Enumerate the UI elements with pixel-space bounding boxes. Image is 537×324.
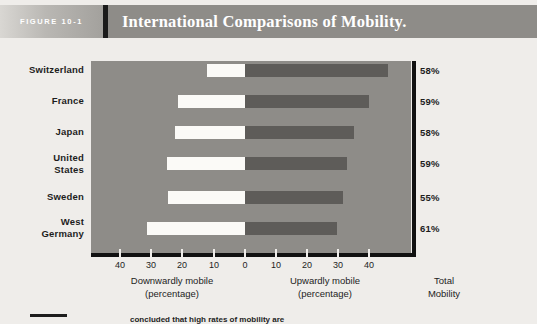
chart-row: West Germany 61% <box>0 222 537 254</box>
figure-title: International Comparisons of Mobility. <box>122 12 406 32</box>
x-tick-label: 30 <box>139 260 163 270</box>
category-label: Sweden <box>0 191 84 203</box>
figure-banner: FIGURE 10-1 International Comparisons of… <box>0 5 537 38</box>
category-label: West Germany <box>0 216 84 239</box>
footnote-text: concluded that high rates of mobility ar… <box>130 315 537 324</box>
bar-downwardly-mobile <box>178 95 245 108</box>
axis-caption-downward-line1: Downwardly mobile <box>131 275 213 286</box>
chart-row: Switzerland 58% <box>0 64 537 96</box>
category-label-line1: West <box>61 216 84 227</box>
total-mobility-value: 59% <box>420 158 440 169</box>
axis-caption-downward-line2: (percentage) <box>145 288 199 299</box>
bar-downwardly-mobile <box>175 126 245 139</box>
axis-caption-total-line1: Total <box>434 275 454 286</box>
x-tick-label: 40 <box>357 260 381 270</box>
figure-page: FIGURE 10-1 International Comparisons of… <box>0 0 537 324</box>
category-label-line1: Sweden <box>47 191 84 202</box>
axis-caption-upward-line1: Upwardly mobile <box>290 275 360 286</box>
bar-upwardly-mobile <box>245 64 388 77</box>
axis-caption-upward-line2: (percentage) <box>298 288 352 299</box>
bar-upwardly-mobile <box>245 126 354 139</box>
axis-caption-downward: Downwardly mobile (percentage) <box>97 274 247 300</box>
bar-downwardly-mobile <box>147 222 245 235</box>
chart: Switzerland 58% France 59% Japan 58% <box>0 58 537 258</box>
chart-row: United States 59% <box>0 157 537 189</box>
bar-upwardly-mobile <box>245 157 347 170</box>
bar-downwardly-mobile <box>168 191 245 204</box>
total-mobility-value: 58% <box>420 65 440 76</box>
figure-number-label: FIGURE 10-1 <box>20 17 83 26</box>
total-mobility-value: 61% <box>420 223 440 234</box>
total-mobility-value: 58% <box>420 127 440 138</box>
x-tick-label: 20 <box>295 260 319 270</box>
total-mobility-value: 55% <box>420 192 440 203</box>
category-label-line2: Germany <box>41 228 84 239</box>
category-label: Switzerland <box>0 64 84 76</box>
x-tick-label: 40 <box>108 260 132 270</box>
category-label-line2: States <box>54 164 84 175</box>
chart-row: France 59% <box>0 95 537 127</box>
category-label-line1: Switzerland <box>29 64 84 75</box>
axis-caption-upward: Upwardly mobile (percentage) <box>250 274 400 300</box>
axis-caption-total-line2: Mobility <box>428 288 460 299</box>
x-tick-label: 30 <box>326 260 350 270</box>
bar-upwardly-mobile <box>245 95 369 108</box>
x-tick-label: 10 <box>264 260 288 270</box>
x-tick-label: 10 <box>202 260 226 270</box>
category-label: France <box>0 95 84 107</box>
figure-title-block: International Comparisons of Mobility. <box>108 5 537 38</box>
bar-downwardly-mobile <box>167 157 245 170</box>
x-tick-label: 0 <box>233 260 257 270</box>
category-label-line1: Japan <box>56 126 84 137</box>
total-mobility-value: 59% <box>420 96 440 107</box>
footnote-rule <box>30 314 67 317</box>
category-label: United States <box>0 152 84 175</box>
bar-upwardly-mobile <box>245 222 337 235</box>
bar-upwardly-mobile <box>245 191 343 204</box>
category-label-line1: United <box>53 152 84 163</box>
bar-downwardly-mobile <box>207 64 245 77</box>
category-label: Japan <box>0 126 84 138</box>
figure-number-block: FIGURE 10-1 <box>0 5 103 38</box>
x-tick-label: 20 <box>170 260 194 270</box>
axis-caption-total: Total Mobility <box>408 274 480 300</box>
category-label-line1: France <box>52 95 84 106</box>
